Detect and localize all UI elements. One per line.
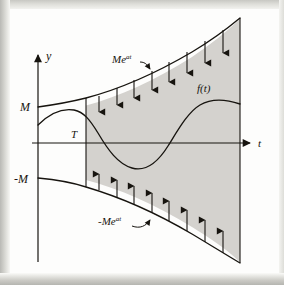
upper-envelope-label: Meat bbox=[111, 53, 133, 65]
upper-envelope-label-base: Me bbox=[111, 53, 126, 65]
lower-envelope-label: -Meat bbox=[98, 215, 122, 227]
lower-envelope-label-exponent: at bbox=[116, 215, 123, 223]
scan-border-top bbox=[0, 0, 284, 9]
scan-border-right bbox=[279, 0, 284, 285]
lower-envelope-leader-line bbox=[132, 220, 150, 227]
function-curve-label: f(t) bbox=[197, 82, 211, 95]
t-tick-label-T: T bbox=[71, 128, 78, 140]
exponential-order-figure: y t T M -M bbox=[0, 0, 284, 285]
t-axis-label: t bbox=[258, 137, 262, 149]
lower-envelope-label-base: -Me bbox=[98, 215, 116, 227]
scan-border-bottom bbox=[0, 273, 284, 285]
figure-screenshot: y t T M -M bbox=[0, 0, 284, 285]
scan-border-left bbox=[0, 0, 10, 285]
upper-envelope-leader-line bbox=[140, 62, 150, 69]
y-tick-label-M: M bbox=[19, 100, 31, 114]
y-tick-label-minus-M: -M bbox=[14, 172, 29, 186]
upper-envelope-label-exponent: at bbox=[126, 53, 133, 61]
y-axis-label: y bbox=[45, 49, 52, 63]
